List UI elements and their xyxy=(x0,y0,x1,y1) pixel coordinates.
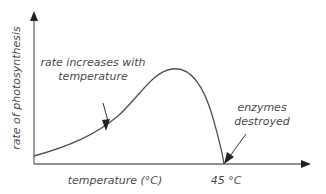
annotation-rate-line1: rate increases with xyxy=(40,56,145,69)
y-axis-label: rate of photosynthesis xyxy=(10,26,23,150)
annotation-rate-line2: temperature xyxy=(58,70,128,83)
annotation-enzymes-line1: enzymes xyxy=(237,101,287,114)
annotation-arrow-enzymes xyxy=(230,134,246,156)
x-axis-label: temperature (°C) xyxy=(68,174,163,187)
y-axis-arrowhead-icon xyxy=(30,11,38,21)
rate-curve xyxy=(34,69,224,164)
x-marker-label: 45 °C xyxy=(211,174,242,187)
annotation-enzymes-line2: destroyed xyxy=(234,115,290,128)
arrowhead-rate-icon xyxy=(102,119,110,131)
photosynthesis-temperature-diagram: rate increases with temperature enzymes … xyxy=(0,0,326,194)
arrowhead-enzymes-icon xyxy=(224,152,234,164)
x-axis-arrowhead-icon xyxy=(301,160,311,168)
annotation-arrow-rate xyxy=(103,103,108,121)
